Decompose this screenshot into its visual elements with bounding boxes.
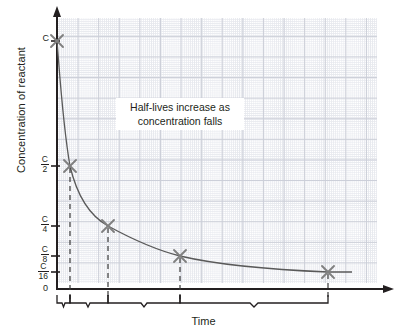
- y-axis-arrow-icon: [53, 6, 61, 17]
- chart-annotation: Half-lives increase as concentration fal…: [116, 98, 244, 130]
- half-life-bracket-3: [108, 295, 180, 307]
- chart-svg-layer: [0, 0, 407, 334]
- y-axis-ticks: [51, 41, 60, 272]
- half-life-brackets: [57, 295, 328, 307]
- x-axis-title: Time: [0, 315, 407, 327]
- decay-curve: [57, 41, 352, 272]
- y-axis-title: Concentration of reactant: [15, 15, 27, 205]
- half-life-bracket-2: [70, 295, 108, 307]
- half-life-guide-lines: [70, 168, 328, 300]
- x-axis-arrow-icon: [383, 285, 394, 293]
- chart-annotation-line-2: concentration falls: [119, 114, 241, 128]
- chart-annotation-line-1: Half-lives increase as: [119, 100, 241, 114]
- chart-container: C C 2 C 4 C 8 C 16 0: [0, 0, 407, 334]
- half-life-bracket-4: [180, 295, 328, 307]
- half-life-bracket-1: [57, 295, 70, 307]
- data-point-markers: [51, 35, 334, 278]
